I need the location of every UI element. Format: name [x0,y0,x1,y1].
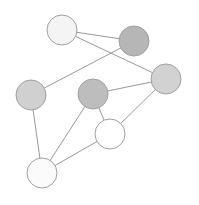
node-F [95,119,125,149]
node-G [27,158,57,188]
node-D [16,80,46,110]
node-B [119,26,149,56]
node-E [78,79,108,109]
nodes [16,15,181,188]
network-graph [0,0,199,205]
edge-A-C [62,30,166,79]
node-C [151,64,181,94]
node-A [47,15,77,45]
